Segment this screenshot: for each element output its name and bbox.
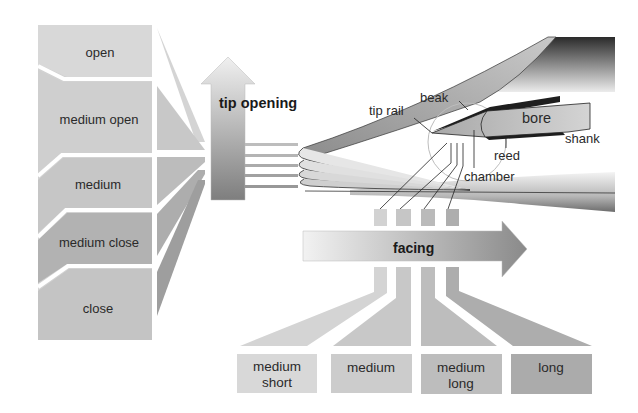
tip-opening-arrow: [201, 57, 255, 200]
facing-label-medium-long-1: medium: [437, 360, 485, 375]
label-chamber: chamber: [464, 169, 515, 184]
tip-label-close: close: [83, 301, 113, 316]
facing-label-medium: medium: [347, 360, 395, 375]
facing-label-long: long: [538, 360, 564, 375]
tip-label-medium-open: medium open: [60, 112, 139, 127]
tip-opening-link-bars: [245, 143, 298, 188]
label-beak: beak: [420, 90, 449, 105]
label-tip-rail: tip rail: [369, 103, 404, 118]
tip-label-medium-close: medium close: [59, 235, 139, 250]
tip-opening-label: tip opening: [219, 95, 297, 111]
mouthpiece-diagram: tip opening: [0, 0, 638, 413]
facing-label: facing: [393, 240, 434, 256]
facing-markers: [374, 209, 459, 226]
tip-label-open: open: [86, 45, 115, 60]
label-reed: reed: [494, 148, 520, 163]
facing-label-medium-short-2: short: [262, 375, 292, 390]
facing-label-medium-long-2: long: [448, 376, 474, 391]
facing-label-medium-short-1: medium: [253, 359, 301, 374]
tip-label-medium: medium: [75, 177, 121, 192]
tip-opening-scale: [38, 25, 205, 340]
label-bore: bore: [522, 110, 551, 126]
facing-fan: [240, 267, 592, 346]
label-shank: shank: [565, 131, 600, 146]
mouthpiece: [299, 37, 615, 212]
